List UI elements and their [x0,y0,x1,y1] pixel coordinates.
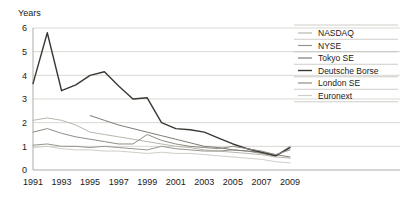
y-tick-label: 1 [22,142,27,152]
x-tick-label: 2007 [251,177,271,187]
x-tick-label: 2009 [280,177,300,187]
chart-canvas: 0123456 19911993199519971999200120032005… [0,0,404,201]
legend-label-deutsche-borse: Deutsche Borse [318,66,379,76]
x-tick-label: 2005 [223,177,243,187]
legend-label-london-se: London SE [318,78,360,88]
y-axis-title: Years [18,8,41,18]
x-tick-label: 2003 [194,177,214,187]
line-chart: 0123456 19911993199519971999200120032005… [0,0,404,201]
y-tick-label: 3 [22,94,27,104]
chart-legend: NASDAQNYSETokyo SEDeutsche BorseLondon S… [294,25,398,102]
y-tick-label: 4 [22,71,27,81]
legend-label-nasdaq: NASDAQ [318,28,354,38]
y-tick-label: 6 [22,23,27,33]
x-tick-label: 1999 [137,177,157,187]
x-axis-ticks: 1991199319951997199920012003200520072009 [23,177,300,187]
y-tick-label: 2 [22,118,27,128]
y-tick-label: 5 [22,47,27,57]
y-tick-label: 0 [22,165,27,175]
legend-label-euronext: Euronext [318,91,353,101]
x-tick-label: 1993 [52,177,72,187]
series-group [33,33,290,163]
legend-label-nyse: NYSE [318,41,341,51]
legend-label-tokyo-se: Tokyo SE [318,53,354,63]
x-tick-label: 1991 [23,177,43,187]
x-tick-label: 1995 [80,177,100,187]
x-tick-label: 1997 [109,177,129,187]
series-line-euronext [33,146,290,163]
series-line-london-se [33,129,290,155]
y-axis-ticks: 0123456 [22,23,27,175]
series-line-deutsche-borse [33,33,290,156]
x-tick-label: 2001 [166,177,186,187]
